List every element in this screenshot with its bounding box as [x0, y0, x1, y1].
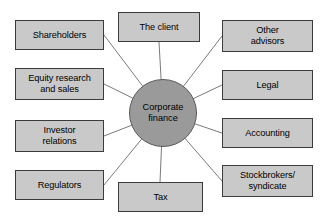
connector-legal — [193, 85, 222, 99]
node-other-advisors: Other advisors — [222, 20, 313, 52]
node-shareholders: Shareholders — [15, 20, 104, 50]
connector-accounting — [194, 124, 222, 133]
node-label-the-client: The client — [138, 22, 181, 33]
connector-other-advisors — [183, 36, 222, 87]
node-equity-research: Equity research and sales — [15, 68, 104, 100]
node-stockbrokers-syndicate: Stockbrokers/ syndicate — [222, 165, 313, 197]
node-label-regulators: Regulators — [36, 180, 83, 191]
node-label-investor-relations: Investor relations — [41, 125, 79, 147]
node-accounting: Accounting — [222, 118, 313, 148]
connector-the-client — [159, 42, 161, 80]
connector-tax — [160, 146, 162, 182]
node-label-equity-research: Equity research and sales — [26, 73, 92, 95]
hub-node-corporate-finance: Corporate finance — [129, 79, 197, 147]
node-the-client: The client — [118, 12, 200, 42]
node-label-legal: Legal — [255, 80, 281, 91]
node-label-other-advisors: Other advisors — [249, 25, 286, 47]
hub-label: Corporate finance — [143, 102, 184, 124]
connector-investor-relations — [104, 125, 132, 136]
connector-shareholders — [104, 35, 143, 87]
node-label-shareholders: Shareholders — [31, 30, 88, 41]
node-regulators: Regulators — [15, 170, 104, 200]
connector-regulators — [104, 139, 142, 185]
node-tax: Tax — [118, 182, 203, 212]
node-legal: Legal — [222, 70, 313, 100]
node-label-stockbrokers-syndicate: Stockbrokers/ syndicate — [238, 170, 297, 192]
connector-equity-research — [104, 84, 133, 98]
node-investor-relations: Investor relations — [15, 120, 104, 152]
diagram-canvas: Corporate finance Shareholders Equity re… — [0, 0, 325, 218]
connector-stockbrokers — [185, 138, 222, 181]
node-label-accounting: Accounting — [243, 128, 291, 139]
node-label-tax: Tax — [152, 192, 170, 203]
